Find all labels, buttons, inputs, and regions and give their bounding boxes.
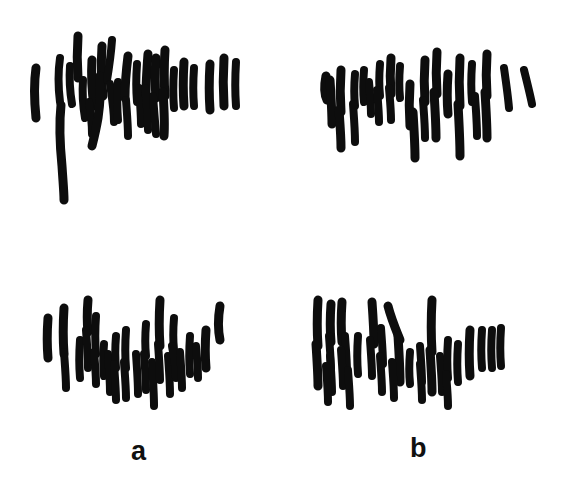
chromosome bbox=[457, 344, 458, 382]
chromosome-panel-bottom-right bbox=[0, 0, 573, 492]
chromosome bbox=[409, 352, 410, 384]
chromosome bbox=[317, 300, 318, 346]
chromosome bbox=[500, 328, 501, 366]
chromosome bbox=[357, 336, 358, 374]
chromosome bbox=[398, 336, 400, 382]
panel-label-a: a bbox=[131, 438, 146, 465]
chromosome bbox=[370, 340, 372, 376]
chromosome bbox=[469, 330, 470, 376]
chromosome bbox=[341, 350, 343, 386]
chromosome bbox=[392, 362, 394, 398]
chromosome bbox=[440, 356, 442, 392]
chromosome bbox=[348, 370, 350, 406]
figure-root: a b bbox=[0, 0, 573, 492]
chromosome bbox=[326, 366, 328, 402]
chromosome bbox=[446, 374, 448, 406]
chromosome bbox=[420, 364, 422, 400]
chromosome bbox=[481, 330, 482, 368]
chromosome bbox=[380, 356, 382, 392]
chromosome-spread-bottom-right bbox=[0, 0, 573, 492]
chromosome bbox=[431, 300, 432, 352]
panel-label-b: b bbox=[410, 435, 427, 462]
chromosome bbox=[430, 350, 432, 392]
chromosome bbox=[316, 344, 318, 386]
chromosome bbox=[491, 330, 492, 368]
